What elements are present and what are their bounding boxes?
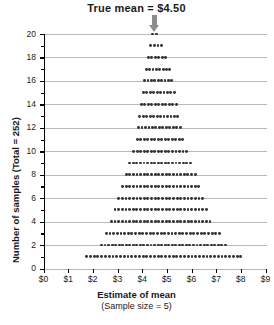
data-dot — [145, 115, 148, 118]
data-dot — [146, 150, 149, 153]
data-dot — [165, 208, 168, 211]
data-dot — [165, 220, 168, 223]
data-dot — [205, 220, 208, 223]
data-dot — [152, 232, 155, 235]
data-dot — [150, 162, 153, 165]
data-dot — [153, 150, 156, 153]
y-axis-tick-label: 16 — [8, 76, 36, 85]
data-dot — [132, 197, 135, 200]
y-axis-tick-label: 12 — [8, 123, 36, 132]
data-dot — [148, 68, 151, 71]
data-dot — [150, 197, 153, 200]
y-axis-tick-label: 18 — [8, 53, 36, 62]
data-dot — [149, 232, 152, 235]
data-dot — [149, 115, 152, 118]
data-dot — [139, 197, 142, 200]
data-dot — [179, 185, 182, 188]
data-dot — [110, 220, 113, 223]
data-dot — [172, 173, 175, 176]
data-dot — [202, 255, 205, 258]
data-dot — [132, 150, 135, 153]
data-dot — [194, 173, 197, 176]
data-dot — [121, 220, 124, 223]
data-dot — [117, 197, 120, 200]
data-dot — [149, 44, 152, 47]
x-axis-tick — [142, 269, 143, 273]
y-axis-minor-tick — [41, 233, 44, 234]
data-dot — [136, 150, 139, 153]
data-dot — [172, 185, 175, 188]
data-dot — [132, 173, 135, 176]
data-dot — [187, 255, 190, 258]
data-dot — [171, 103, 174, 106]
x-axis-tick-label: $9 — [252, 275, 274, 284]
y-axis-tick-label: 20 — [8, 30, 36, 39]
data-dot — [121, 197, 124, 200]
data-dot — [157, 138, 160, 141]
data-dot — [128, 197, 131, 200]
data-dot — [164, 150, 167, 153]
gridline — [45, 269, 267, 270]
data-dot — [183, 197, 186, 200]
data-dot — [161, 220, 164, 223]
data-dot — [185, 150, 188, 153]
data-dot — [116, 232, 119, 235]
x-axis-tick — [241, 269, 242, 273]
data-dot — [142, 255, 145, 258]
data-dot — [176, 197, 179, 200]
data-dot — [194, 220, 197, 223]
data-dot — [175, 150, 178, 153]
data-dot — [183, 173, 186, 176]
data-dot — [200, 232, 203, 235]
data-dot — [160, 232, 163, 235]
data-dot — [160, 150, 163, 153]
y-axis-tick — [40, 34, 44, 35]
data-dot — [189, 232, 192, 235]
data-dot — [182, 162, 185, 165]
data-dot — [127, 232, 130, 235]
data-dot — [159, 115, 162, 118]
data-dot — [194, 197, 197, 200]
data-dot — [153, 44, 156, 47]
data-dot — [132, 185, 135, 188]
x-axis-tick — [93, 269, 94, 273]
x-axis-subtitle: (Sample size = 5) — [0, 301, 273, 311]
data-dot — [150, 150, 153, 153]
y-axis-tick — [40, 245, 44, 246]
y-axis-minor-tick — [41, 116, 44, 117]
y-axis-minor-tick — [41, 186, 44, 187]
data-dot — [123, 255, 126, 258]
data-dot — [201, 197, 204, 200]
data-dot — [161, 185, 164, 188]
data-dot — [198, 197, 201, 200]
data-dot — [145, 232, 148, 235]
data-dot — [165, 185, 168, 188]
data-dot — [143, 197, 146, 200]
data-dot — [172, 197, 175, 200]
data-dot — [161, 103, 164, 106]
data-dot — [171, 138, 174, 141]
data-dot — [158, 68, 161, 71]
data-dot — [173, 91, 176, 94]
x-axis-tick — [118, 269, 119, 273]
data-dot — [178, 138, 181, 141]
x-axis-tick — [44, 269, 45, 273]
data-dot — [138, 115, 141, 118]
y-axis-tick — [40, 175, 44, 176]
data-dot — [108, 255, 111, 258]
data-dot — [218, 232, 221, 235]
data-dot — [176, 208, 179, 211]
data-dot — [143, 173, 146, 176]
data-dot — [123, 232, 126, 235]
data-dot — [147, 103, 150, 106]
data-dot — [150, 185, 153, 188]
data-dot — [178, 150, 181, 153]
data-dot — [139, 150, 142, 153]
y-axis-minor-tick — [41, 69, 44, 70]
chart-annotation-title: True mean = $4.50 — [0, 2, 273, 14]
data-dot — [161, 56, 164, 59]
y-axis-tick — [40, 81, 44, 82]
data-dot — [154, 220, 157, 223]
arrow-head — [149, 25, 159, 32]
data-dot — [172, 255, 175, 258]
